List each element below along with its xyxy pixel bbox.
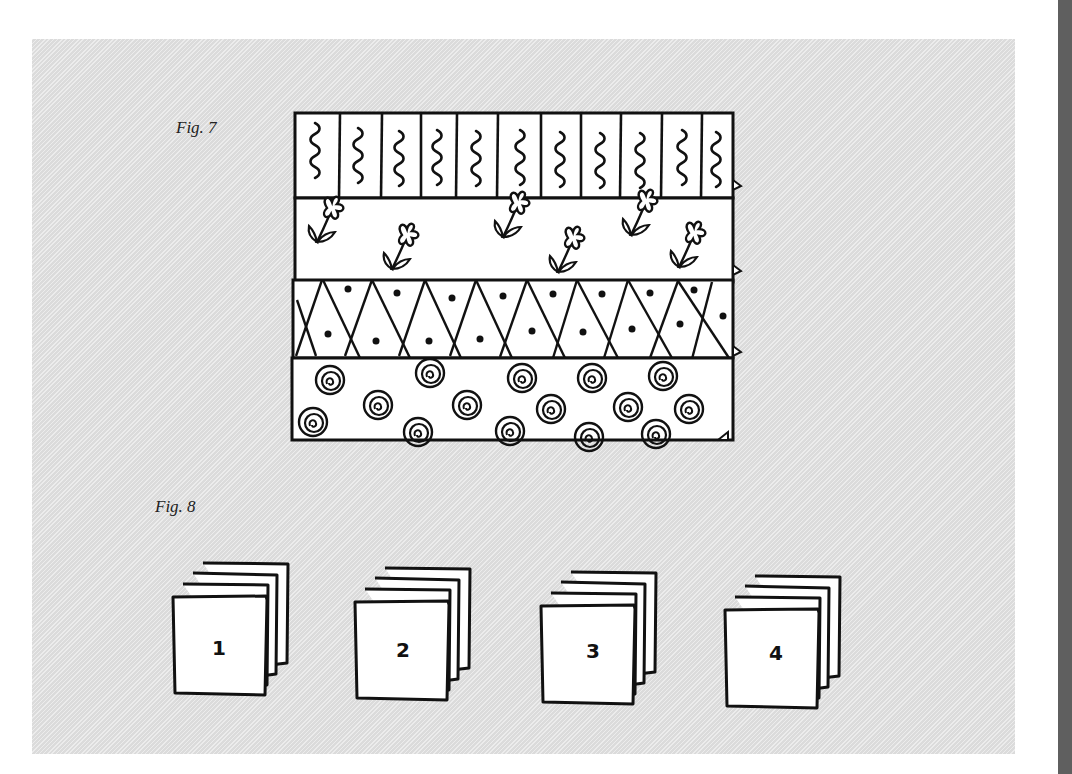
stack-2-number: 2 [396, 638, 410, 662]
fig7-strips [292, 112, 741, 451]
stack-1: 1 [173, 563, 288, 695]
stack-4-number: 4 [769, 641, 783, 665]
stack-2: 2 [355, 568, 470, 700]
stack-1-number: 1 [212, 636, 226, 660]
stack-4: 4 [725, 576, 840, 708]
illustration: 1 2 3 4 [0, 0, 1072, 774]
stack-3-number: 3 [586, 639, 600, 663]
stack-3: 3 [541, 572, 656, 704]
